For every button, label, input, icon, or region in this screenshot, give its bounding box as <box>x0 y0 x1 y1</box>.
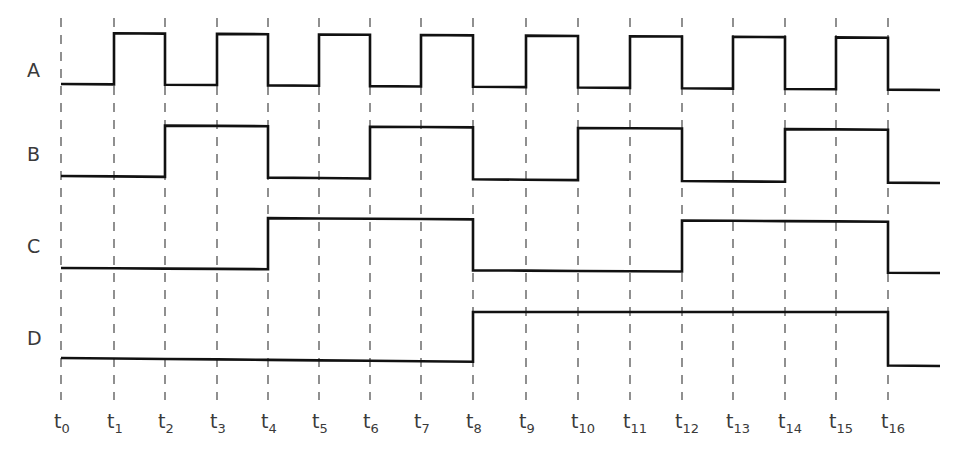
time-label-t14: t14 <box>778 410 802 436</box>
time-guide-lines <box>61 18 888 400</box>
time-label-subscript: 3 <box>217 421 225 436</box>
signal-label-c: C <box>27 235 40 257</box>
time-label-t16: t16 <box>881 410 905 436</box>
time-label-t5: t5 <box>312 410 328 436</box>
time-label-t8: t8 <box>466 410 482 436</box>
time-label-t15: t15 <box>829 410 853 436</box>
timing-diagram <box>0 0 962 457</box>
time-label-subscript: 0 <box>61 421 69 436</box>
waveforms <box>61 33 940 366</box>
time-label-t4: t4 <box>261 410 277 436</box>
time-label-subscript: 11 <box>630 421 647 436</box>
time-label-subscript: 13 <box>733 421 750 436</box>
waveform-d <box>61 312 940 366</box>
time-label-t1: t1 <box>107 410 123 436</box>
time-label-subscript: 12 <box>682 421 699 436</box>
waveform-a <box>61 33 940 90</box>
time-label-t3: t3 <box>210 410 226 436</box>
time-label-subscript: 8 <box>473 421 481 436</box>
time-label-t2: t2 <box>158 410 174 436</box>
signal-label-a: A <box>27 59 40 81</box>
time-label-t6: t6 <box>363 410 379 436</box>
time-label-subscript: 4 <box>268 421 276 436</box>
time-label-subscript: 1 <box>114 421 122 436</box>
time-label-subscript: 10 <box>578 421 595 436</box>
time-label-subscript: 2 <box>165 421 173 436</box>
time-label-t0: t0 <box>54 410 70 436</box>
time-label-subscript: 15 <box>836 421 853 436</box>
time-label-t7: t7 <box>414 410 430 436</box>
time-label-t11: t11 <box>623 410 647 436</box>
time-label-t10: t10 <box>571 410 595 436</box>
time-label-t9: t9 <box>519 410 535 436</box>
time-label-subscript: 6 <box>370 421 378 436</box>
signal-label-b: B <box>27 143 40 165</box>
signal-label-d: D <box>27 327 42 349</box>
time-label-subscript: 9 <box>526 421 534 436</box>
time-label-subscript: 16 <box>888 421 905 436</box>
time-label-subscript: 7 <box>421 421 429 436</box>
waveform-b <box>61 126 940 183</box>
time-label-t12: t12 <box>675 410 699 436</box>
time-label-subscript: 5 <box>319 421 327 436</box>
waveform-c <box>61 218 940 273</box>
time-label-subscript: 14 <box>785 421 802 436</box>
time-label-t13: t13 <box>726 410 750 436</box>
